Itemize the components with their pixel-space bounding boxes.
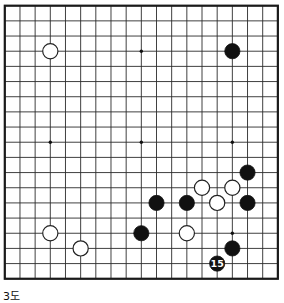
star-point	[231, 141, 234, 144]
white-stone-disc	[179, 226, 194, 241]
black-stone-disc	[240, 195, 255, 210]
stone-black[interactable]	[225, 241, 240, 256]
stone-white[interactable]	[43, 226, 58, 241]
go-diagram-figure: 15 3도	[0, 0, 284, 303]
star-point	[140, 141, 143, 144]
white-stone-disc	[210, 195, 225, 210]
stone-white[interactable]	[225, 180, 240, 195]
white-stone-disc	[43, 44, 58, 59]
figure-caption: 3도	[3, 291, 123, 303]
stone-black[interactable]	[240, 195, 255, 210]
black-stone-disc	[149, 195, 164, 210]
black-stone-disc	[240, 165, 255, 180]
stone-black[interactable]	[179, 195, 194, 210]
stone-black[interactable]	[240, 165, 255, 180]
stone-white[interactable]	[210, 195, 225, 210]
star-point	[140, 50, 143, 53]
white-stone-disc	[225, 180, 240, 195]
stone-black[interactable]	[149, 195, 164, 210]
go-board[interactable]: 15	[0, 0, 284, 292]
stone-white[interactable]	[179, 226, 194, 241]
black-stone-disc	[225, 241, 240, 256]
black-stone-disc	[225, 44, 240, 59]
stone-black[interactable]	[225, 44, 240, 59]
star-point	[49, 141, 52, 144]
black-stone-disc	[134, 226, 149, 241]
white-stone-disc	[194, 180, 209, 195]
stone-numbered-15[interactable]: 15	[210, 256, 225, 271]
stone-white[interactable]	[194, 180, 209, 195]
black-stone-disc	[179, 195, 194, 210]
stone-white[interactable]	[73, 241, 88, 256]
white-stone-disc	[43, 226, 58, 241]
stone-move-number: 15	[211, 258, 224, 269]
stone-white[interactable]	[43, 44, 58, 59]
white-stone-disc	[73, 241, 88, 256]
star-point	[231, 232, 234, 235]
stone-black[interactable]	[134, 226, 149, 241]
